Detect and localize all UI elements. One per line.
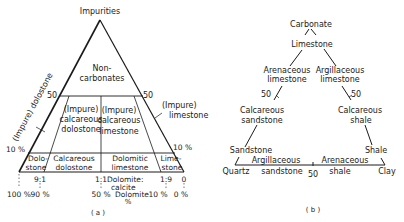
limestone-argillaceous-line — [324, 49, 336, 66]
calcareous-dolostone-1: Calcareous — [53, 154, 95, 163]
dolostone-2: stone — [26, 163, 47, 172]
panel-a-labels: Impurities Non- carbonates (Impure) dolo… — [6, 7, 208, 217]
base-50-label: 50 — [308, 170, 318, 179]
shale-label: Shale — [365, 146, 387, 155]
impure-calc-limestone-2: calcareous — [98, 116, 141, 125]
tick-50-left: 50 — [47, 91, 57, 100]
limestone-label: Limestone — [291, 40, 333, 49]
impure-calc-limestone-1: (Impure) — [102, 106, 137, 115]
argillaceous-sandstone-1: Argillaceous — [252, 156, 301, 165]
dolomitic-limestone-2: limestone — [112, 163, 149, 172]
argillaceous-sandstone-2: sandstone — [261, 167, 302, 176]
ratio-1-9: 1:9 — [160, 175, 172, 184]
noncarbonates-label-1: Non- — [93, 64, 112, 73]
pct-100: 100 % — [7, 190, 31, 199]
pct-10: 10 % — [148, 190, 167, 199]
impure-calc-dolostone-1: (Impure) — [64, 105, 99, 114]
calc-sandstone-sandstone-line — [245, 125, 257, 147]
impure-calc-limestone-3: limestone — [99, 127, 138, 136]
arenaceous-calc-sandstone-line — [274, 86, 282, 100]
panel-b-labels: Carbonate Limestone Arenaceous limestone… — [223, 20, 396, 214]
argillaceous-limestone-2: limestone — [320, 75, 359, 84]
tick-50-right-b: 50 — [351, 90, 361, 99]
pct-0: 0 % — [174, 190, 188, 199]
pct-90: 90 % — [30, 190, 49, 199]
impure-calc-dolostone-3: dolostone — [61, 125, 100, 134]
calcareous-sandstone-2: sandstone — [241, 116, 282, 125]
impure-dolostone-edge-label: (Impure) dolostone — [11, 71, 55, 143]
ratio-0: 0 — [182, 175, 187, 184]
arenaceous-shale-2: shale — [329, 167, 350, 176]
carbonate-limestone-left — [305, 29, 309, 35]
carbonate-limestone-right — [311, 29, 316, 35]
calcareous-dolostone-2: dolostone — [56, 163, 93, 172]
right-edge-leader — [155, 113, 162, 118]
tick-10-right: 10 % — [173, 143, 192, 152]
arenaceous-limestone-1: Arenaceous — [264, 66, 311, 75]
arenaceous-limestone-2: limestone — [267, 75, 306, 84]
carbonate-apex-label: Carbonate — [290, 20, 332, 29]
argillaceous-calc-shale-line — [342, 86, 351, 100]
calcareous-sandstone-1: Calcareous — [240, 106, 284, 115]
dolomitic-limestone-1: Dolomitic — [112, 154, 148, 163]
impure-limestone-label-1: (Impure) — [162, 101, 197, 110]
limestone-2: stone — [162, 163, 183, 172]
panel-b-caption: ( b ) — [306, 206, 321, 214]
calc-shale-shale-line — [365, 125, 372, 145]
pct-50: 50 % — [91, 190, 110, 199]
panel-a-caption: ( a ) — [91, 209, 105, 217]
impurities-apex-label: Impurities — [80, 7, 120, 16]
calcareous-shale-1: Calcareous — [338, 106, 382, 115]
quartz-corner-label: Quartz — [223, 167, 250, 176]
calcareous-shale-2: shale — [350, 116, 371, 125]
dolomite-pct-title-2: % — [125, 198, 132, 206]
impure-limestone-label-2: limestone — [169, 111, 208, 120]
tick-50-right: 50 — [143, 91, 153, 100]
argillaceous-limestone-1: Argillaceous — [316, 66, 365, 75]
tick-50-left-b: 50 — [261, 90, 271, 99]
limestone-1: Lime- — [161, 154, 182, 163]
ratio-1-1: 1:1 — [95, 175, 107, 184]
tick-10-left: 10 % — [6, 145, 25, 154]
limestone-classification-diagrams: Impurities Non- carbonates (Impure) dolo… — [0, 0, 404, 222]
shale-clay-line — [381, 158, 385, 165]
ratio-9-1: 9:1 — [34, 175, 46, 184]
arenaceous-shale-1: Arenaceous — [322, 156, 369, 165]
sandstone-label: Sandstone — [230, 146, 272, 155]
clay-corner-label: Clay — [378, 167, 396, 176]
noncarbonates-label-2: carbonates — [80, 74, 125, 83]
impure-calc-dolostone-2: calcareous — [60, 115, 103, 124]
sandstone-quartz-line — [235, 157, 239, 165]
limestone-arenaceous-line — [290, 50, 302, 66]
dolomite-pct-title-1: Dolomite — [115, 190, 149, 199]
dolostone-1: Dolo- — [28, 154, 48, 163]
